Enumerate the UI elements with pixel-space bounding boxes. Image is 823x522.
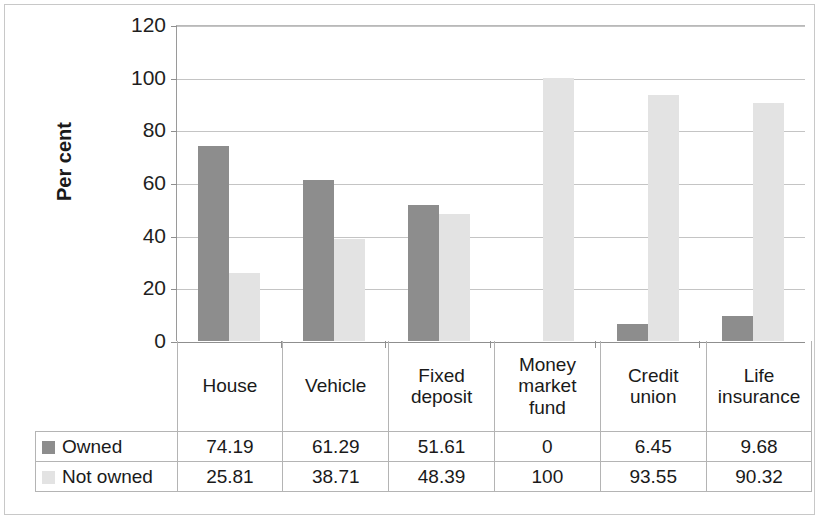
table-cell: 0	[494, 432, 600, 462]
bar-groups	[177, 26, 805, 341]
table-row: Not owned25.8138.7148.3910093.5590.32	[36, 462, 812, 492]
table-header-row: HouseVehicleFixeddepositMoneymarketfundC…	[36, 341, 812, 432]
y-axis-tick-label: 20	[106, 277, 166, 298]
y-axis-title: Per cent	[53, 92, 76, 232]
legend-swatch-icon	[42, 441, 55, 454]
table-column-header: Fixeddeposit	[389, 341, 495, 432]
table-row-header-not-owned: Not owned	[36, 462, 178, 492]
table-cell: 74.19	[177, 432, 283, 462]
bar-group	[282, 26, 387, 341]
table-column-header: Vehicle	[283, 341, 389, 432]
table-cell: 9.68	[706, 432, 812, 462]
table-column-header: Creditunion	[600, 341, 706, 432]
table-cell: 61.29	[283, 432, 389, 462]
table-column-header: Lifeinsurance	[706, 341, 812, 432]
bar-not-owned	[543, 78, 574, 341]
bar-group	[386, 26, 491, 341]
chart-figure: Per cent 120100806040200 HouseVehicleFix…	[0, 0, 823, 522]
table-cell: 25.81	[177, 462, 283, 492]
bar-not-owned	[334, 239, 365, 341]
table-row: Owned74.1961.2951.6106.459.68	[36, 432, 812, 462]
y-axis-tick-label: 60	[106, 172, 166, 193]
table-cell: 93.55	[600, 462, 706, 492]
table-corner-cell	[36, 341, 178, 432]
legend-label: Not owned	[62, 466, 153, 487]
bar-owned	[408, 205, 439, 341]
bar-group	[491, 26, 596, 341]
bar-owned	[303, 180, 334, 341]
table-cell: 48.39	[389, 462, 495, 492]
table-column-header: House	[177, 341, 283, 432]
data-table: HouseVehicleFixeddepositMoneymarketfundC…	[35, 341, 812, 492]
bar-not-owned	[229, 273, 260, 341]
table-cell: 90.32	[706, 462, 812, 492]
table-column-header: Moneymarketfund	[494, 341, 600, 432]
bar-not-owned	[753, 103, 784, 341]
legend-label: Owned	[62, 436, 122, 457]
bar-not-owned	[648, 95, 679, 341]
y-axis-tick-label: 40	[106, 225, 166, 246]
y-axis-tick-label: 80	[106, 119, 166, 140]
plot-area	[176, 25, 805, 341]
y-axis-tick-label: 120	[106, 14, 166, 35]
bar-not-owned	[439, 214, 470, 341]
bar-group	[700, 26, 805, 341]
bar-group	[177, 26, 282, 341]
bar-owned	[617, 324, 648, 341]
table-cell: 38.71	[283, 462, 389, 492]
legend-swatch-icon	[42, 471, 55, 484]
bar-group	[596, 26, 701, 341]
table-row-header-owned: Owned	[36, 432, 178, 462]
table-cell: 100	[494, 462, 600, 492]
y-axis-tick-label: 100	[106, 67, 166, 88]
bar-owned	[198, 146, 229, 341]
bar-owned	[722, 316, 753, 341]
table-cell: 6.45	[600, 432, 706, 462]
table-cell: 51.61	[389, 432, 495, 462]
